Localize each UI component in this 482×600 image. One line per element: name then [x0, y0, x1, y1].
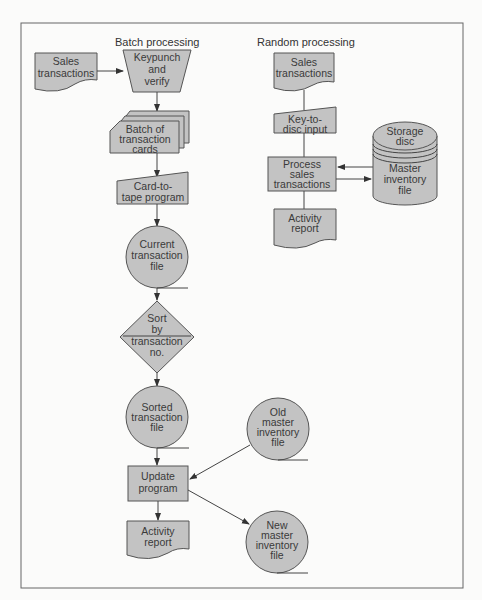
- batch-activity-report-document: Activity report: [127, 521, 189, 559]
- label: transactions: [38, 67, 95, 79]
- arrow-old-master-to-update: [190, 445, 250, 479]
- batch-transaction-cards: Batch of transaction cards: [110, 111, 189, 155]
- process-sales-transactions: Process sales transactions: [268, 157, 336, 191]
- old-master-inventory-file-tape: Old master inventory file: [247, 398, 309, 460]
- random-processing-title: Random processing: [257, 36, 355, 48]
- label: transactions: [274, 178, 331, 190]
- sort-by-transaction-no-diamond: Sort by transaction no.: [120, 301, 194, 373]
- label: Update: [141, 470, 175, 482]
- label: by: [151, 323, 163, 335]
- label: cards: [132, 143, 158, 155]
- label: Keypunch: [134, 51, 181, 63]
- label: file: [150, 260, 164, 272]
- batch-processing-title: Batch processing: [115, 36, 199, 48]
- label: disc input: [283, 123, 327, 135]
- batch-sales-transactions-document: Sales transactions: [35, 53, 97, 91]
- label: Sales: [53, 55, 79, 67]
- label: file: [150, 421, 164, 433]
- label: tape program: [122, 191, 185, 203]
- label: and: [148, 63, 166, 75]
- label: report: [144, 536, 172, 548]
- new-master-inventory-file-tape: New master inventory file: [246, 511, 308, 573]
- flowchart-diagram: Batch processing Random processing Sales…: [0, 0, 482, 600]
- arrow-update-to-new-master: [188, 490, 249, 524]
- random-sales-transactions-document: Sales transactions: [274, 53, 334, 91]
- label: disc: [396, 135, 415, 147]
- label: file: [398, 184, 412, 196]
- update-program-process: Update program: [128, 466, 188, 501]
- label: program: [138, 482, 177, 494]
- label: file: [271, 436, 285, 448]
- label: file: [270, 549, 284, 561]
- current-transaction-file-tape: Current transaction file: [126, 226, 188, 288]
- card-to-tape-program: Card-to- tape program: [117, 172, 188, 204]
- label: no.: [150, 346, 165, 358]
- storage-disc-master-inventory-cylinder: Storage disc Master inventory file: [373, 122, 437, 205]
- random-activity-report-document: Activity report: [274, 209, 336, 248]
- label: report: [291, 222, 319, 234]
- label: transactions: [276, 67, 333, 79]
- sorted-transaction-file-tape: Sorted transaction file: [126, 386, 189, 448]
- keypunch-verify-manual-operation: Keypunch and verify: [123, 50, 191, 92]
- figure-frame: [21, 23, 463, 588]
- label: verify: [144, 75, 170, 87]
- key-to-disc-input: Key-to- disc input: [274, 107, 336, 135]
